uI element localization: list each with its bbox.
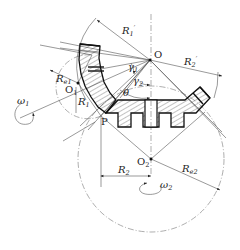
label-O2: O2 [137,156,149,169]
cone-distance-arc-right [214,72,218,98]
label-gamma2: γ2 [133,75,143,88]
label-Re2: Re2 [181,163,198,176]
point-O1 [77,82,80,85]
label-R1-prime: R1′ [121,24,136,38]
line-O-gamma1-ref [95,60,150,70]
label-theta: θ [123,87,129,98]
label-R2: R2 [117,164,130,177]
label-R2-prime: R2′ [183,55,198,69]
bevel-gear-diagram: O O1 O2 P R1′ R2′ Re1 R1 R2 Re2 γ1 γ2 θ … [0,0,240,250]
label-omega1: ω1 [17,95,29,108]
point-O [149,59,152,62]
label-gamma1: γ1 [128,61,138,74]
point-O2 [150,158,153,161]
line-O-to-left-top2 [60,42,150,60]
label-O: O [154,49,162,60]
label-R1: R1 [77,96,90,109]
omega1-rotation-icon [15,103,33,124]
omega2-rotation-icon [140,183,162,194]
tangent-line-left [63,122,95,141]
label-Re1: Re1 [55,73,72,86]
label-P: P [101,116,108,127]
line-O-right-lower2 [150,60,222,132]
label-omega2: ω2 [160,179,172,192]
